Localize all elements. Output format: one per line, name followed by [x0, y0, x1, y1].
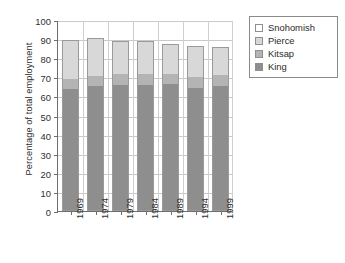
bar-segment-king [162, 84, 179, 211]
y-axis-tick-label: 20 [41, 168, 51, 179]
y-axis-tick [54, 59, 58, 60]
x-gridline [183, 21, 184, 211]
x-axis-tick [196, 211, 197, 215]
x-axis-label-1969: 1969 [74, 198, 85, 219]
y-axis-tick [54, 117, 58, 118]
bar-1999[interactable] [212, 47, 229, 211]
y-axis-tick-label: 40 [41, 130, 51, 141]
y-axis-tick-label: 80 [41, 54, 51, 65]
stacked-bar-chart: Percentage of total employment 010203040… [0, 0, 345, 263]
y-axis-tick [54, 174, 58, 175]
bar-segment-pierce [162, 44, 179, 74]
y-axis-tick-label: 60 [41, 92, 51, 103]
bar-segment-king [212, 86, 229, 211]
x-gridline [133, 21, 134, 211]
plot-area: 0102030405060708090100 [57, 21, 232, 212]
x-axis-label-1994: 1994 [199, 198, 210, 219]
x-axis-tick [146, 211, 147, 215]
bar-1979[interactable] [112, 41, 129, 211]
y-axis-tick-label: 100 [35, 16, 51, 27]
bar-1994[interactable] [187, 46, 204, 211]
legend-label-snohomish: Snohomish [268, 22, 315, 33]
chart-legend: Snohomish Pierce Kitsap King [249, 16, 338, 78]
x-axis-label-1999: 1999 [224, 198, 235, 219]
legend-swatch-king [255, 63, 263, 71]
y-axis-tick-label: 0 [46, 207, 51, 218]
y-axis-tick [54, 155, 58, 156]
x-gridline [83, 21, 84, 211]
bar-segment-pierce [212, 47, 229, 75]
legend-item-snohomish[interactable]: Snohomish [255, 21, 333, 34]
legend-label-king: King [268, 61, 287, 72]
y-axis-title: Percentage of total employment [24, 14, 34, 204]
legend-swatch-pierce [255, 37, 263, 45]
x-gridline [208, 21, 209, 211]
x-axis-tick [71, 211, 72, 215]
bar-1969[interactable] [62, 40, 79, 211]
bar-1974[interactable] [87, 38, 104, 211]
x-gridline [108, 21, 109, 211]
y-axis-tick [54, 193, 58, 194]
bar-segment-king [112, 85, 129, 211]
y-axis-tick [54, 212, 58, 213]
bar-segment-kitsap [62, 79, 79, 89]
bar-segment-kitsap [187, 77, 204, 88]
legend-label-pierce: Pierce [268, 35, 295, 46]
bar-1984[interactable] [137, 41, 154, 211]
y-axis-tick [54, 21, 58, 22]
bar-segment-kitsap [87, 76, 104, 86]
bar-segment-pierce [62, 40, 79, 79]
x-axis-tick [171, 211, 172, 215]
bar-segment-pierce [187, 46, 204, 77]
bar-segment-king [62, 89, 79, 211]
bar-segment-kitsap [212, 75, 229, 86]
legend-item-king[interactable]: King [255, 60, 333, 73]
x-axis-label-1979: 1979 [124, 198, 135, 219]
bar-segment-king [137, 85, 154, 211]
x-axis-tick [221, 211, 222, 215]
bar-segment-kitsap [137, 74, 154, 85]
x-axis-tick [96, 211, 97, 215]
x-axis-tick [121, 211, 122, 215]
bar-segment-kitsap [112, 74, 129, 85]
y-gridline [58, 21, 232, 22]
bar-segment-pierce [137, 41, 154, 74]
y-axis-tick-label: 70 [41, 73, 51, 84]
x-axis-label-1989: 1989 [174, 198, 185, 219]
x-axis-label-1984: 1984 [149, 198, 160, 219]
legend-item-pierce[interactable]: Pierce [255, 34, 333, 47]
y-axis-tick [54, 97, 58, 98]
y-axis-tick [54, 78, 58, 79]
x-gridline [232, 21, 233, 211]
bar-segment-kitsap [162, 74, 179, 85]
y-axis-tick-label: 10 [41, 187, 51, 198]
legend-item-kitsap[interactable]: Kitsap [255, 47, 333, 60]
y-axis-tick-label: 90 [41, 35, 51, 46]
bar-segment-king [187, 88, 204, 211]
x-gridline [158, 21, 159, 211]
y-axis-tick [54, 136, 58, 137]
bar-1989[interactable] [162, 44, 179, 211]
bar-segment-pierce [112, 41, 129, 74]
legend-swatch-kitsap [255, 50, 263, 58]
y-axis-tick [54, 40, 58, 41]
legend-swatch-snohomish [255, 24, 263, 32]
bar-segment-pierce [87, 38, 104, 75]
x-axis-label-1974: 1974 [99, 198, 110, 219]
bar-segment-king [87, 86, 104, 211]
y-axis-tick-label: 50 [41, 111, 51, 122]
legend-label-kitsap: Kitsap [268, 48, 294, 59]
y-axis-tick-label: 30 [41, 149, 51, 160]
